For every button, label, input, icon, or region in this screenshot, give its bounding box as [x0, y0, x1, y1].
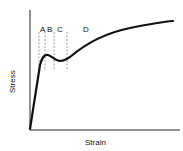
region-label-a: A [40, 25, 46, 34]
region-label-b: B [47, 25, 52, 34]
stress-strain-curve [30, 21, 173, 129]
stress-strain-chart: A B C D Strain Stress [0, 0, 183, 151]
region-label-d: D [83, 25, 89, 34]
region-label-c: C [57, 25, 63, 34]
region-boundaries [39, 32, 67, 71]
x-axis-label: Strain [85, 138, 106, 147]
y-axis-label: Stress [8, 70, 17, 93]
